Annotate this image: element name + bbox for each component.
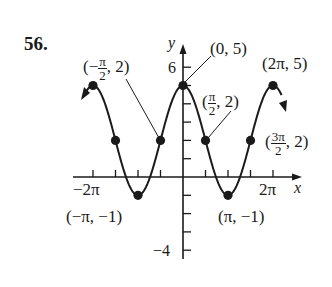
label-part: , 2) bbox=[286, 132, 309, 151]
numerator: π bbox=[208, 90, 217, 104]
data-point bbox=[246, 136, 255, 145]
y-axis-arrow-icon bbox=[180, 44, 187, 54]
point-label-zero-five: (0, 5) bbox=[210, 40, 247, 57]
y-tick-label-6: 6 bbox=[168, 60, 176, 76]
x-tick-label-2pi: 2π bbox=[259, 181, 276, 198]
numerator: π bbox=[98, 55, 107, 69]
point-label-two-pi-five: (2π, 5) bbox=[262, 55, 307, 72]
x-tick-label-neg2pi: −2π bbox=[73, 181, 100, 198]
point-label-neg-pi-neg-one: (−π, −1) bbox=[66, 208, 122, 225]
fraction-3pi-over-2: 3π2 bbox=[271, 130, 286, 157]
x-axis-label: x bbox=[294, 180, 301, 196]
point-label-neg-pi-half: (−π2, 2) bbox=[83, 55, 130, 82]
point-label-pi-half: (π2, 2) bbox=[202, 90, 239, 117]
data-point bbox=[223, 191, 232, 200]
denominator: 2 bbox=[271, 144, 286, 157]
data-point bbox=[201, 136, 210, 145]
curve-right-arrow-icon bbox=[279, 100, 287, 112]
data-point bbox=[88, 81, 97, 90]
data-point bbox=[268, 81, 277, 90]
fraction-pi-over-2: π2 bbox=[208, 90, 217, 117]
label-part: , 2) bbox=[216, 92, 239, 111]
denominator: 2 bbox=[208, 104, 217, 117]
point-label-three-pi-half: (3π2, 2) bbox=[265, 130, 308, 157]
point-label-pi-neg-one: (π, −1) bbox=[218, 208, 265, 225]
denominator: 2 bbox=[98, 69, 107, 82]
label-part: (− bbox=[83, 57, 98, 76]
data-point bbox=[178, 81, 187, 90]
y-axis-label: y bbox=[168, 35, 175, 51]
data-point bbox=[111, 136, 120, 145]
fraction-pi-over-2: π2 bbox=[98, 55, 107, 82]
y-ticks bbox=[183, 67, 191, 250]
label-part: , 2) bbox=[107, 57, 130, 76]
y-tick-label-neg4: −4 bbox=[153, 243, 170, 259]
numerator: 3π bbox=[271, 130, 286, 144]
data-point bbox=[133, 191, 142, 200]
data-point bbox=[156, 136, 165, 145]
